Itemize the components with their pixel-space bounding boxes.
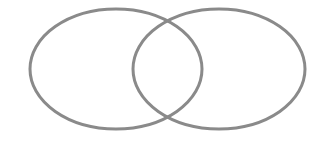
right-set-ellipse bbox=[133, 9, 305, 129]
venn-diagram bbox=[0, 0, 316, 144]
left-set-ellipse bbox=[30, 9, 202, 129]
